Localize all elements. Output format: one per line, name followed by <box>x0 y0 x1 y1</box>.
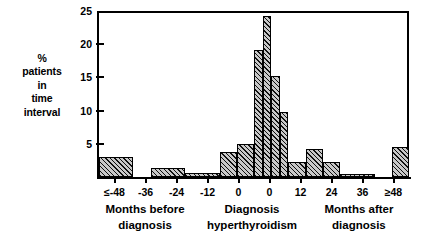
y-tick-mark <box>96 76 104 78</box>
y-tick-label: 5 <box>66 139 92 149</box>
y-tick-label: 25 <box>66 6 92 16</box>
y-tick-label: 20 <box>66 39 92 49</box>
x-tick-mark <box>238 177 240 183</box>
x-tick-mark <box>331 177 333 183</box>
x-tick-mark <box>176 177 178 183</box>
histogram-bar <box>99 157 133 177</box>
histogram-bar <box>392 147 409 177</box>
x-tick-mark <box>269 177 271 183</box>
x-tick-mark <box>145 177 147 183</box>
histogram-figure: % patients in time interval 252015105 ≤-… <box>0 0 440 240</box>
y-tick-label: 15 <box>66 72 92 82</box>
y-tick-mark <box>96 110 104 112</box>
x-axis-caption-group: Months beforediagnosisDiagnosishyperthyr… <box>0 202 440 236</box>
y-tick-mark <box>96 43 104 45</box>
histogram-bar <box>151 168 185 177</box>
x-tick-mark <box>114 177 116 183</box>
y-tick-mark <box>96 143 104 145</box>
histogram-bar <box>306 149 323 177</box>
x-tick-mark <box>300 177 302 183</box>
plot-area <box>97 11 409 177</box>
histogram-bar <box>288 162 305 177</box>
x-tick-mark <box>362 177 364 183</box>
histogram-bar <box>220 152 237 177</box>
y-tick-label-group: 252015105 <box>62 11 92 181</box>
x-axis-caption: Months afterdiagnosis <box>284 202 434 233</box>
x-axis-caption-line: Months after <box>284 202 434 218</box>
histogram-bar <box>280 112 289 177</box>
x-tick-label-group: ≤-48-36-24-1200122436≥48 <box>0 186 440 202</box>
bar-group <box>99 11 409 177</box>
x-tick-group <box>97 177 411 184</box>
x-tick-label: ≥48 <box>372 186 416 199</box>
histogram-bar <box>263 16 272 177</box>
histogram-bar <box>237 144 254 177</box>
histogram-bar <box>271 76 280 177</box>
histogram-bar <box>323 162 340 177</box>
histogram-bar <box>254 50 263 177</box>
x-axis-caption-line: diagnosis <box>284 218 434 234</box>
x-tick-mark <box>207 177 209 183</box>
x-tick-mark <box>393 177 395 183</box>
y-tick-label: 10 <box>66 106 92 116</box>
